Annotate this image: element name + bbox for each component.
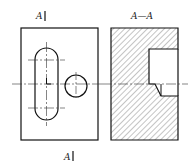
section-view <box>102 28 188 140</box>
drawing-canvas: A A A—A <box>0 0 195 168</box>
section-marker-bottom-label: A <box>63 152 71 162</box>
section-marker-top: A <box>35 11 45 21</box>
section-marker-bottom: A <box>63 151 73 162</box>
front-view <box>12 28 102 140</box>
section-title: A—A <box>130 11 153 21</box>
section-marker-top-label: A <box>35 11 43 21</box>
